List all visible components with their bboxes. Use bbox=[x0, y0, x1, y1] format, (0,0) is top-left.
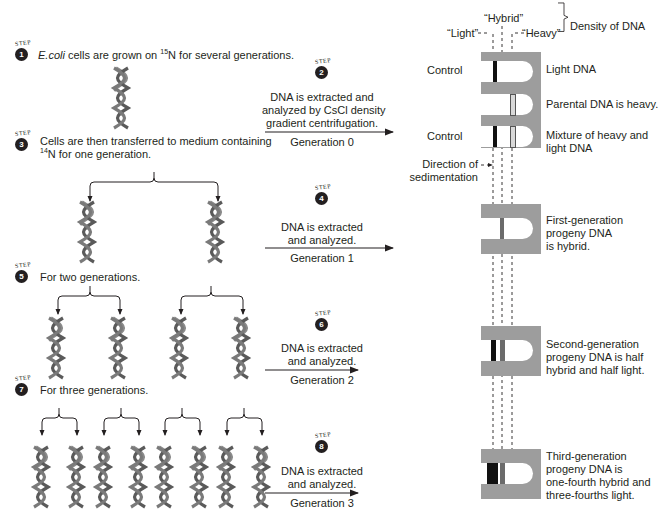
tube-parental bbox=[481, 94, 533, 115]
result-parental-heavy: Parental DNA is heavy. bbox=[546, 98, 658, 111]
tube-gen1 bbox=[481, 218, 533, 239]
light-band bbox=[493, 126, 497, 147]
tube-gen2 bbox=[481, 340, 533, 361]
tube-panel-gen2 bbox=[481, 326, 541, 376]
step-7-text: For three generations. bbox=[40, 384, 148, 397]
hybrid-band bbox=[500, 218, 504, 239]
step-7-badge: STEP7 bbox=[14, 375, 30, 397]
step-4-badge: STEP4 bbox=[314, 184, 330, 206]
hybrid-band bbox=[500, 340, 505, 361]
control-label-1: Control bbox=[427, 64, 462, 77]
step-1-badge: STEP1 bbox=[14, 40, 30, 62]
light-label: “Light” bbox=[447, 27, 478, 40]
generation-0-label: Generation 0 bbox=[262, 136, 382, 149]
light-band bbox=[493, 61, 497, 82]
step-8-text: DNA is extractedand analyzed. bbox=[262, 465, 382, 491]
tube-panel-gen1 bbox=[481, 204, 541, 254]
hybrid-band bbox=[500, 463, 505, 484]
step-3-text: Cells are then transferred to medium con… bbox=[40, 135, 272, 161]
step-2-text: DNA is extracted andanalyzed by CsCl den… bbox=[262, 91, 382, 130]
tube-panel-gen0 bbox=[481, 52, 541, 148]
result-gen3: Third-generationprogeny DNA isone-fourth… bbox=[546, 450, 651, 502]
generation-2-label: Generation 2 bbox=[262, 374, 382, 387]
result-mixture: Mixture of heavy andlight DNA bbox=[546, 129, 648, 155]
step-6-text: DNA is extractedand analyzed. bbox=[262, 342, 382, 368]
hybrid-label: “Hybrid” bbox=[484, 12, 523, 25]
heavy-label: “Heavy” bbox=[522, 27, 561, 40]
tube-panel-gen3 bbox=[481, 449, 541, 499]
step-8-badge: STEP8 bbox=[314, 432, 330, 454]
heavy-band bbox=[510, 94, 516, 116]
light-band bbox=[491, 340, 496, 361]
tube-gen3 bbox=[481, 463, 533, 484]
generation-3-label: Generation 3 bbox=[262, 497, 382, 510]
density-of-dna-label: Density of DNA bbox=[570, 20, 645, 33]
tube-control-light bbox=[481, 61, 533, 82]
step-6-badge: STEP6 bbox=[314, 310, 330, 332]
result-gen2: Second-generationprogeny DNA is halfhybr… bbox=[546, 338, 644, 377]
light-band bbox=[487, 463, 498, 484]
tube-control-mixture bbox=[481, 126, 533, 147]
result-gen1: First-generationprogeny DNAis hybrid. bbox=[546, 214, 623, 253]
step-5-text: For two generations. bbox=[40, 271, 140, 284]
step-2-badge: STEP2 bbox=[314, 58, 330, 80]
step-4-text: DNA is extractedand analyzed. bbox=[262, 221, 382, 247]
parental-helix bbox=[114, 68, 128, 128]
step-5-badge: STEP5 bbox=[14, 262, 30, 284]
generation-1-label: Generation 1 bbox=[262, 252, 382, 265]
heavy-band bbox=[510, 126, 516, 148]
gen1-bracket bbox=[90, 172, 218, 201]
sedimentation-label: Direction ofsedimentation bbox=[408, 158, 478, 184]
control-label-2: Control bbox=[427, 130, 462, 143]
result-light-dna: Light DNA bbox=[546, 63, 596, 76]
step-3-badge: STEP3 bbox=[14, 130, 30, 152]
step-1-text: E.coli cells are grown on 15N for severa… bbox=[38, 49, 294, 62]
